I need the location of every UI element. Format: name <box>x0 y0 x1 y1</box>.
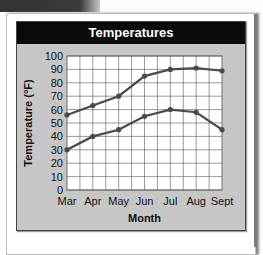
data-point <box>194 65 199 70</box>
x-tick-label: Apr <box>84 195 101 207</box>
data-point <box>194 110 199 115</box>
data-point <box>90 103 95 108</box>
y-tick-label: 60 <box>51 104 63 116</box>
x-tick-label: Aug <box>186 195 206 207</box>
data-point <box>142 114 147 119</box>
x-tick-label: Mar <box>58 195 77 207</box>
data-point <box>116 127 121 132</box>
data-point <box>116 94 121 99</box>
y-tick-label: 80 <box>51 77 63 89</box>
data-point <box>142 74 147 79</box>
data-point <box>219 127 224 132</box>
y-tick-label: 20 <box>51 157 63 169</box>
y-tick-label: 10 <box>51 171 63 183</box>
data-point <box>90 134 95 139</box>
data-point <box>168 107 173 112</box>
x-tick-label: Jun <box>136 195 154 207</box>
y-axis-label: Temperature (°F) <box>22 79 34 167</box>
y-tick-label: 90 <box>51 63 63 75</box>
y-tick-label: 50 <box>51 117 63 129</box>
x-axis-label: Month <box>128 212 161 224</box>
y-tick-label: 100 <box>45 50 63 62</box>
y-tick-label: 40 <box>51 130 63 142</box>
x-tick-label: May <box>108 195 129 207</box>
data-point <box>64 147 69 152</box>
y-tick-label: 70 <box>51 90 63 102</box>
data-point <box>64 112 69 117</box>
x-tick-label: Jul <box>163 195 177 207</box>
data-point <box>168 67 173 72</box>
x-tick-label: Sept <box>211 195 234 207</box>
y-tick-label: 30 <box>51 144 63 156</box>
data-point <box>219 68 224 73</box>
